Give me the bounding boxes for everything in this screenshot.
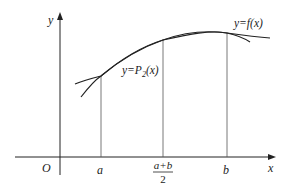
tick-label-midpoint: a+b 2 <box>153 159 173 185</box>
tick-label-a: a <box>97 163 103 177</box>
diagram-canvas: y x O a a+b 2 b y=f(x) y=P2(x) <box>0 0 286 189</box>
midpoint-numerator: a+b <box>154 159 173 171</box>
y-axis-label: y <box>47 13 54 27</box>
curve-f-label: y=f(x) <box>233 17 263 30</box>
origin-label: O <box>42 161 51 175</box>
x-axis-label: x <box>267 161 274 175</box>
x-axis <box>15 154 276 160</box>
y-axis-arrow-icon <box>57 12 63 20</box>
curve-p2-label: y=P2(x) <box>121 64 159 79</box>
tick-label-b: b <box>223 163 229 177</box>
midpoint-denominator: 2 <box>160 173 166 185</box>
curve-p2 <box>81 32 250 97</box>
curve-f <box>75 32 270 84</box>
x-axis-arrow-icon <box>268 154 276 160</box>
y-axis <box>57 12 63 175</box>
